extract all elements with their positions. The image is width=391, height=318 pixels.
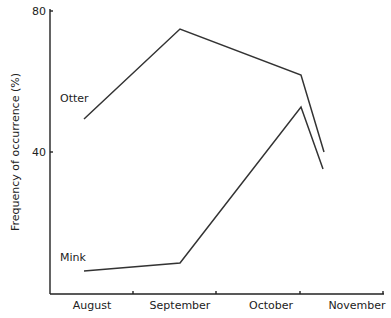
x-label-august: August	[73, 299, 112, 312]
otter-label: Otter	[60, 92, 89, 105]
mink-label: Mink	[60, 251, 87, 264]
y-tick-label-40: 40	[32, 146, 46, 159]
y-tick-label-80: 80	[32, 5, 46, 18]
y-axis-title: Frequency of occurrence (%)	[9, 73, 22, 231]
x-label-november: November	[328, 299, 386, 312]
x-label-september: September	[150, 299, 211, 312]
mink-line	[84, 107, 323, 271]
x-label-october: October	[249, 299, 293, 312]
line-chart: 80 40 August September October November …	[0, 0, 391, 318]
otter-line	[84, 29, 324, 152]
